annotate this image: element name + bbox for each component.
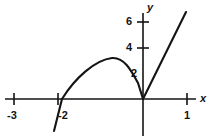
x-tick-label-1: 1 xyxy=(184,110,190,121)
x-tick-label-minus-3: -3 xyxy=(7,110,17,121)
y-tick-label-4: 4 xyxy=(126,42,132,53)
y-tick-label-6: 6 xyxy=(126,16,132,27)
x-axis-label: x xyxy=(200,93,206,104)
line-branch-curve xyxy=(143,12,186,99)
x-tick-label-minus-2: -2 xyxy=(58,110,68,121)
y-tick-label-2: 2 xyxy=(131,68,137,79)
y-axis-label: y xyxy=(147,2,153,13)
graph-figure: y x -3 -2 1 6 4 2 xyxy=(0,0,212,139)
plot-canvas xyxy=(0,0,212,139)
